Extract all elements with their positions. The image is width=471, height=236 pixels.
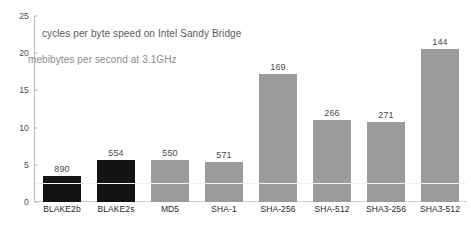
- bar-chart: 0510152025 890554550571169266271144 BLAK…: [0, 0, 471, 236]
- bar-value-label: 144: [432, 37, 448, 47]
- bar-rect: [367, 122, 405, 202]
- bar-value-label: 266: [324, 108, 340, 118]
- bar-rect: [43, 176, 81, 202]
- x-tick-label-blake2s: BLAKE2s: [89, 204, 143, 214]
- x-tick-label-md5: MD5: [143, 204, 197, 214]
- inner-gridline: [35, 183, 467, 184]
- bar-blake2s[interactable]: 554: [97, 16, 135, 202]
- chart-subtitle: mebibytes per second at 3.1GHz: [28, 54, 177, 65]
- bar-value-label: 550: [162, 148, 178, 158]
- bar-group: 890554550571169266271144: [35, 16, 467, 202]
- bar-rect: [421, 49, 459, 202]
- bar-sha3-512[interactable]: 144: [421, 16, 459, 202]
- bar-rect: [313, 120, 351, 202]
- bar-value-label: 169: [270, 62, 286, 72]
- bar-value-label: 554: [108, 148, 124, 158]
- bar-sha-512[interactable]: 266: [313, 16, 351, 202]
- bar-md5[interactable]: 550: [151, 16, 189, 202]
- bar-rect: [151, 160, 189, 202]
- y-tick-label-15: 15: [19, 85, 34, 95]
- bar-rect: [97, 160, 135, 202]
- x-tick-label-sha-1: SHA-1: [197, 204, 251, 214]
- y-tick-label-5: 5: [24, 160, 34, 170]
- x-tick-label-sha-256: SHA-256: [251, 204, 305, 214]
- bar-value-label: 271: [378, 110, 394, 120]
- bar-sha-1[interactable]: 571: [205, 16, 243, 202]
- bar-sha-256[interactable]: 169: [259, 16, 297, 202]
- x-tick-label-blake2b: BLAKE2b: [35, 204, 89, 214]
- bar-blake2b[interactable]: 890: [43, 16, 81, 202]
- bar-sha3-256[interactable]: 271: [367, 16, 405, 202]
- chart-title: cycles per byte speed on Intel Sandy Bri…: [42, 28, 241, 39]
- x-tick-label-sha-512: SHA-512: [305, 204, 359, 214]
- bar-value-label: 890: [54, 164, 70, 174]
- y-tick-label-10: 10: [19, 123, 34, 133]
- y-tick-label-25: 25: [19, 11, 34, 21]
- bar-rect: [205, 162, 243, 202]
- bar-value-label: 571: [216, 150, 232, 160]
- y-tick-label-0: 0: [24, 197, 34, 207]
- x-tick-label-sha3-256: SHA3-256: [359, 204, 413, 214]
- x-tick-label-sha3-512: SHA3-512: [413, 204, 467, 214]
